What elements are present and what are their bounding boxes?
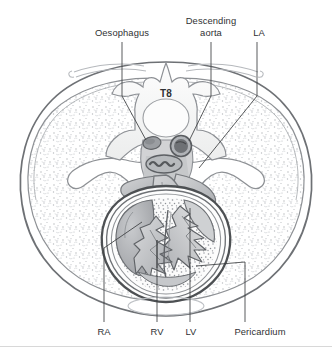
- label-pericardium: Pericardium: [234, 326, 285, 337]
- label-ra: RA: [97, 326, 111, 337]
- label-oesophagus: Oesophagus: [95, 27, 149, 38]
- thorax-cross-section-figure: Oesophagus Descending aorta LA T8 RA RV …: [0, 0, 332, 348]
- label-descending-aorta-line2: aorta: [200, 27, 223, 38]
- label-descending-aorta-line1: Descending: [186, 15, 237, 26]
- label-la: LA: [253, 27, 265, 38]
- spinal-canal: [143, 99, 189, 137]
- descending-aorta: [171, 136, 192, 157]
- label-lv: LV: [186, 326, 198, 337]
- label-t8: T8: [160, 88, 172, 99]
- vertebral-body-detail: [146, 155, 182, 173]
- anatomy-svg: Oesophagus Descending aorta LA T8 RA RV …: [0, 0, 332, 348]
- label-rv: RV: [150, 326, 164, 337]
